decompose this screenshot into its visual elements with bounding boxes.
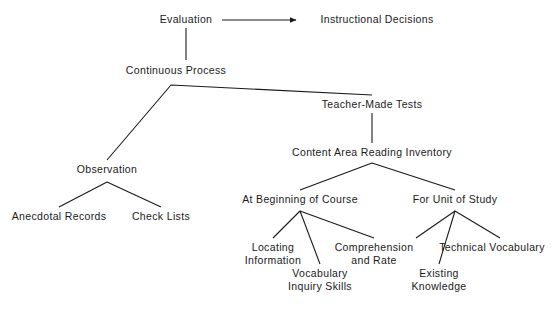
diagram-canvas: Evaluation Instructional Decisions Conti… bbox=[0, 0, 559, 316]
node-existing-knowledge: Existing Knowledge bbox=[411, 267, 466, 293]
connector-at-beginning-branch bbox=[273, 211, 374, 238]
node-comprehension-and-rate: Comprehension and Rate bbox=[335, 241, 414, 267]
node-locating-information-line1: Locating bbox=[252, 241, 295, 253]
node-evaluation: Evaluation bbox=[160, 13, 213, 26]
node-existing-knowledge-line2: Knowledge bbox=[411, 280, 466, 293]
connector-observation-branch bbox=[59, 182, 161, 207]
node-teacher-made-tests: Teacher-Made Tests bbox=[322, 98, 423, 111]
node-technical-vocabulary-line1: Technical Vocabulary bbox=[439, 241, 545, 253]
connector-for-unit-to-existing-knowledge bbox=[439, 211, 455, 264]
node-observation: Observation bbox=[77, 163, 137, 176]
node-continuous-process: Continuous Process bbox=[126, 64, 226, 77]
node-for-unit-of-study: For Unit of Study bbox=[413, 193, 498, 206]
node-technical-vocabulary: Technical Vocabulary bbox=[439, 241, 545, 254]
node-locating-information: Locating Information bbox=[245, 241, 301, 267]
node-check-lists: Check Lists bbox=[132, 210, 190, 223]
node-instructional-decisions: Instructional Decisions bbox=[320, 13, 433, 26]
connector-layer bbox=[0, 0, 559, 316]
node-existing-knowledge-line1: Existing bbox=[419, 267, 459, 279]
node-comprehension-and-rate-line2: and Rate bbox=[335, 254, 414, 267]
connector-content-inventory-branch bbox=[300, 163, 455, 190]
node-vocabulary-inquiry-skills: Vocabulary Inquiry Skills bbox=[288, 267, 352, 293]
connector-for-unit-branch bbox=[416, 211, 500, 238]
node-comprehension-and-rate-line1: Comprehension bbox=[335, 241, 414, 253]
node-vocabulary-inquiry-skills-line1: Vocabulary bbox=[292, 267, 347, 279]
connector-at-beginning-to-vocabulary-inquiry-skills bbox=[300, 211, 320, 264]
node-content-area-reading-inventory: Content Area Reading Inventory bbox=[292, 146, 452, 159]
node-at-beginning-of-course: At Beginning of Course bbox=[242, 193, 358, 206]
node-anecdotal-records: Anecdotal Records bbox=[12, 210, 107, 223]
node-vocabulary-inquiry-skills-line2: Inquiry Skills bbox=[288, 280, 352, 293]
node-locating-information-line2: Information bbox=[245, 254, 301, 267]
